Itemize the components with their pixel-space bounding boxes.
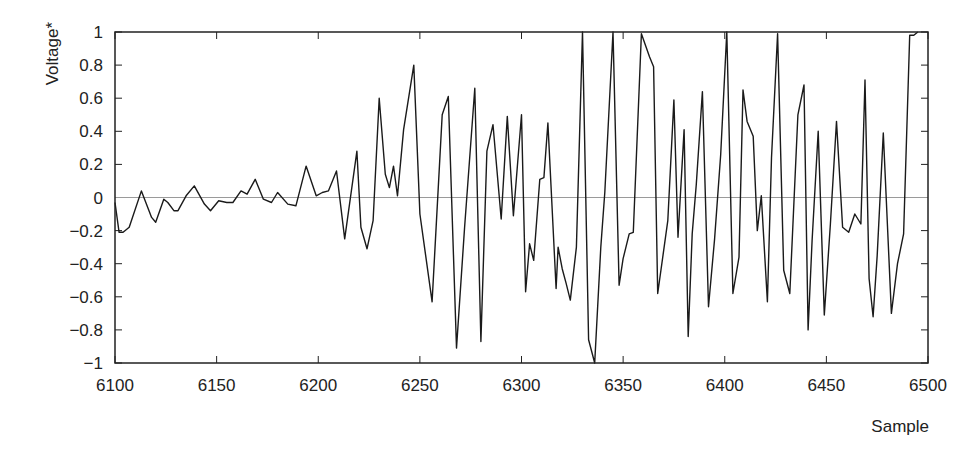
x-tick-label: 6300 xyxy=(503,376,541,395)
y-tick-label: 0 xyxy=(94,189,103,208)
x-axis-label: Sample xyxy=(871,417,929,436)
y-tick-label: −1 xyxy=(84,354,103,373)
y-tick-label: 1 xyxy=(94,23,103,42)
y-tick-label: −0.8 xyxy=(69,321,103,340)
x-tick-label: 6150 xyxy=(198,376,236,395)
x-tick-label: 6250 xyxy=(401,376,439,395)
x-tick-label: 6100 xyxy=(96,376,134,395)
y-tick-label: −0.4 xyxy=(69,255,103,274)
y-axis-label: Voltage* xyxy=(43,22,62,86)
x-axis-ticks: 610061506200625063006350640064506500 xyxy=(96,32,947,395)
x-tick-label: 6200 xyxy=(299,376,337,395)
y-tick-label: 0.6 xyxy=(79,89,103,108)
x-tick-label: 6500 xyxy=(909,376,947,395)
y-tick-label: 0.8 xyxy=(79,56,103,75)
y-tick-label: −0.6 xyxy=(69,288,103,307)
voltage-line-chart: 10.80.60.40.20−0.2−0.4−0.6−0.8−1 6100615… xyxy=(0,0,980,460)
x-tick-label: 6400 xyxy=(706,376,744,395)
y-tick-label: 0.2 xyxy=(79,155,103,174)
x-tick-label: 6450 xyxy=(807,376,845,395)
x-tick-label: 6350 xyxy=(604,376,642,395)
y-tick-label: 0.4 xyxy=(79,122,103,141)
y-tick-label: −0.2 xyxy=(69,222,103,241)
